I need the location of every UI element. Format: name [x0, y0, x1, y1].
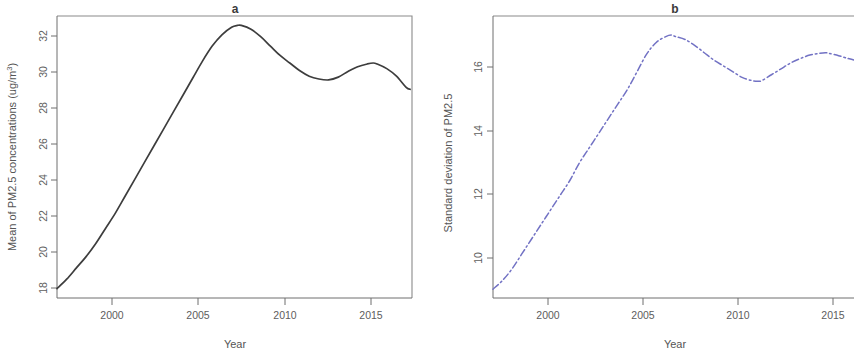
panel-a-plot: 18 20 22 24 26 28 30 32 2000 2005 2010 2… — [0, 0, 427, 355]
panel-b-xtick-label-2: 2010 — [726, 309, 750, 321]
panel-b: 10 12 14 16 2000 2005 2010 2015 Year Sta… — [427, 0, 854, 355]
panel-a-ytick-label-7: 32 — [37, 30, 49, 42]
panel-a-xtick-label-0: 2000 — [100, 309, 124, 321]
panel-a-xtick-label-1: 2005 — [186, 309, 210, 321]
panel-b-xtick-label-1: 2005 — [631, 309, 655, 321]
panel-b-xtick-label-0: 2000 — [536, 309, 560, 321]
panel-a-x-ticks — [112, 298, 371, 305]
panel-a-data-curve — [57, 25, 410, 289]
panel-b-title: b — [671, 2, 678, 16]
panel-b-plot: 10 12 14 16 2000 2005 2010 2015 Year Sta… — [427, 0, 854, 355]
panel-a-xtick-label-3: 2015 — [359, 309, 383, 321]
panel-a-ytick-label-3: 24 — [37, 174, 49, 186]
panel-a-ytick-label-1: 20 — [37, 246, 49, 258]
panel-a-ytick-label-0: 18 — [37, 282, 49, 294]
panel-b-ylabel: Standard deviation of PM2.5 — [442, 94, 454, 233]
panel-a-ylabel-prefix: Mean of PM2.5 concentrations (ug/m — [6, 71, 18, 251]
panel-a-y-ticks — [51, 36, 57, 288]
panel-a-frame — [57, 16, 412, 298]
panel-a-xlabel: Year — [224, 338, 247, 350]
panel-b-xtick-label-3: 2015 — [821, 309, 845, 321]
panel-b-ytick-label-0: 10 — [472, 252, 484, 264]
panel-a-ylabel-suffix: ) — [6, 63, 18, 67]
panel-a-ytick-label-6: 30 — [37, 66, 49, 78]
panel-a-xtick-label-2: 2010 — [273, 309, 297, 321]
panel-b-ytick-label-1: 12 — [472, 188, 484, 200]
panel-b-ytick-label-2: 14 — [472, 125, 484, 137]
panel-a-ytick-label-4: 26 — [37, 138, 49, 150]
panel-b-ytick-label-3: 16 — [472, 61, 484, 73]
panel-a: 18 20 22 24 26 28 30 32 2000 2005 2010 2… — [0, 0, 427, 355]
panel-b-data-curve — [493, 35, 854, 289]
panel-b-y-ticks — [487, 67, 493, 258]
panel-a-ylabel: Mean of PM2.5 concentrations (ug/m3) — [5, 63, 18, 251]
panel-b-x-ticks — [548, 298, 833, 305]
panel-b-xlabel: Year — [664, 338, 687, 350]
figure-container: 18 20 22 24 26 28 30 32 2000 2005 2010 2… — [0, 0, 854, 355]
panel-a-ytick-label-5: 28 — [37, 102, 49, 114]
panel-a-ytick-label-2: 22 — [37, 210, 49, 222]
panel-a-title: a — [232, 2, 239, 16]
